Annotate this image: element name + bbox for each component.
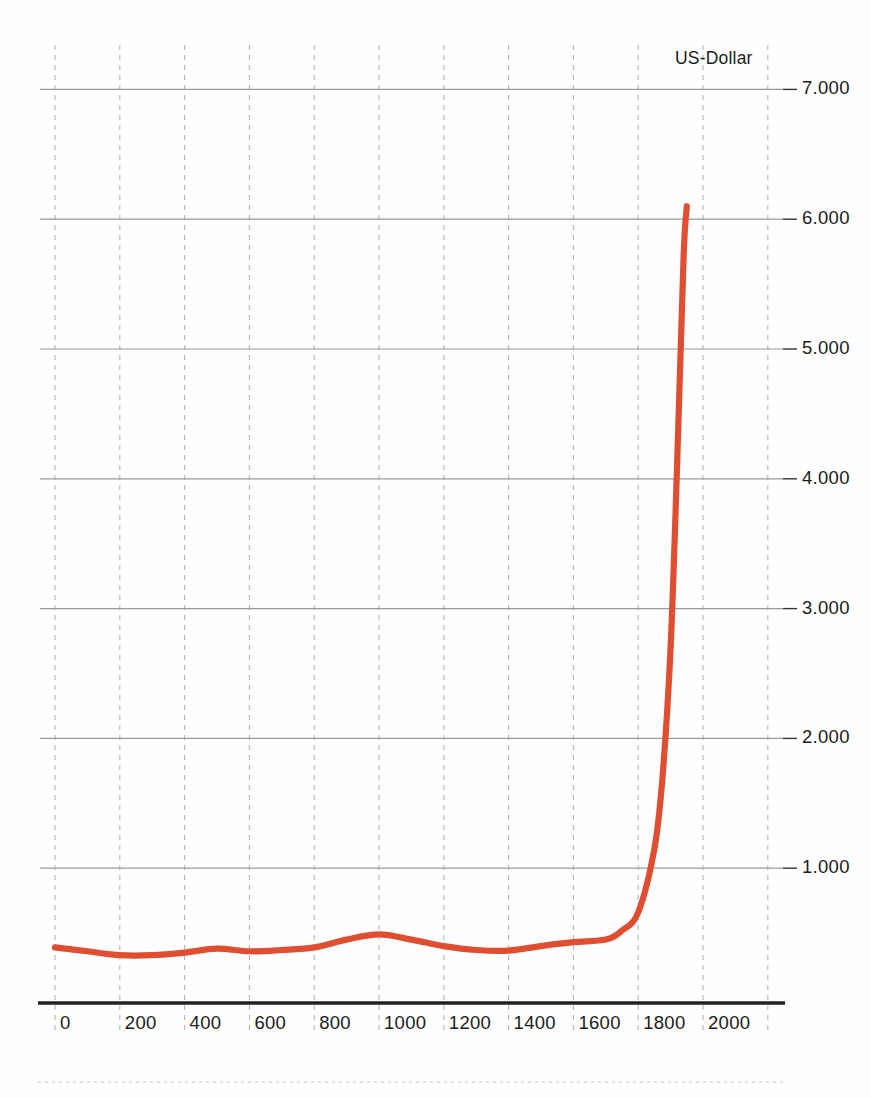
y-axis-tick-label: 4.000: [802, 467, 850, 489]
y-axis-tick-label: 3.000: [802, 597, 850, 619]
x-axis-tick-label: 1000: [384, 1012, 426, 1034]
x-axis-tick-label: 600: [254, 1012, 286, 1034]
x-axis-tick-label: 200: [125, 1012, 157, 1034]
x-axis-tick-label: 400: [190, 1012, 222, 1034]
plot-area: [0, 0, 871, 1098]
y-axis-tick-label: 6.000: [802, 207, 850, 229]
y-axis-tick-label: 7.000: [802, 77, 850, 99]
x-axis-tick-label: 1200: [449, 1012, 491, 1034]
x-axis-tick-label: 1400: [514, 1012, 556, 1034]
x-axis-tick-label: 1800: [643, 1012, 685, 1034]
x-axis-tick-label: 0: [60, 1012, 71, 1034]
chart-svg: [0, 0, 871, 1098]
y-axis-tick-label: 5.000: [802, 337, 850, 359]
chart-figure: US-Dollar 1.0002.0003.0004.0005.0006.000…: [0, 0, 871, 1098]
x-axis-tick-label: 2000: [708, 1012, 750, 1034]
y-axis-tick-label: 1.000: [802, 856, 850, 878]
x-axis-tick-label: 1600: [578, 1012, 620, 1034]
y-axis-tick-label: 2.000: [802, 726, 850, 748]
x-axis-tick-label: 800: [319, 1012, 351, 1034]
data-series-line: [55, 206, 687, 955]
y-axis-unit-label: US-Dollar: [675, 48, 753, 69]
